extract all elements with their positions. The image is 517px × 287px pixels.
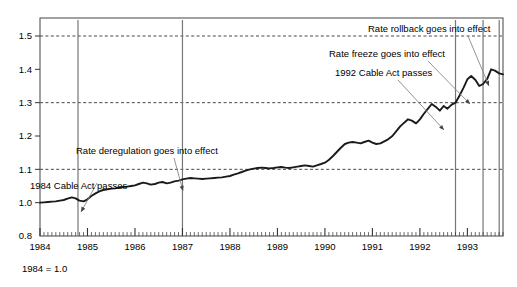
annotation-label-a3: 1992 Cable Act passes [335,67,432,78]
chart-footnote: 1984 = 1.0 [22,263,67,274]
x-tick-label-1985: 1985 [77,241,98,252]
y-tick-label-1-0: 1.0 [19,197,32,208]
annotation-label-a2: Rate deregulation goes into effect [76,145,218,156]
x-tick-label-1986: 1986 [124,241,145,252]
y-tick-label-1-3: 1.3 [19,97,32,108]
x-tick-label-1993: 1993 [457,241,478,252]
y-tick-label-1-1: 1.1 [19,164,32,175]
annotation-label-a5: Rate rollback goes into effect [368,23,491,34]
cable-rate-index-line-chart: 1984198519861987198819891990199119921993… [0,0,517,287]
annotation-label-a1: 1984 Cable Act passes [30,180,127,191]
y-tick-label-0-8: 0.8 [19,230,32,241]
x-tick-label-1989: 1989 [267,241,288,252]
x-tick-label-1988: 1988 [219,241,240,252]
y-tick-label-1-2: 1.2 [19,130,32,141]
x-tick-label-1984: 1984 [29,241,50,252]
annotation-label-a4: Rate freeze goes into effect [329,48,445,59]
x-tick-label-1992: 1992 [409,241,430,252]
chart-container: 1984198519861987198819891990199119921993… [0,0,517,287]
x-tick-label-1991: 1991 [362,241,383,252]
x-tick-label-1987: 1987 [172,241,193,252]
y-tick-label-1-4: 1.4 [19,64,32,75]
x-tick-label-1990: 1990 [314,241,335,252]
y-tick-label-1-5: 1.5 [19,30,32,41]
